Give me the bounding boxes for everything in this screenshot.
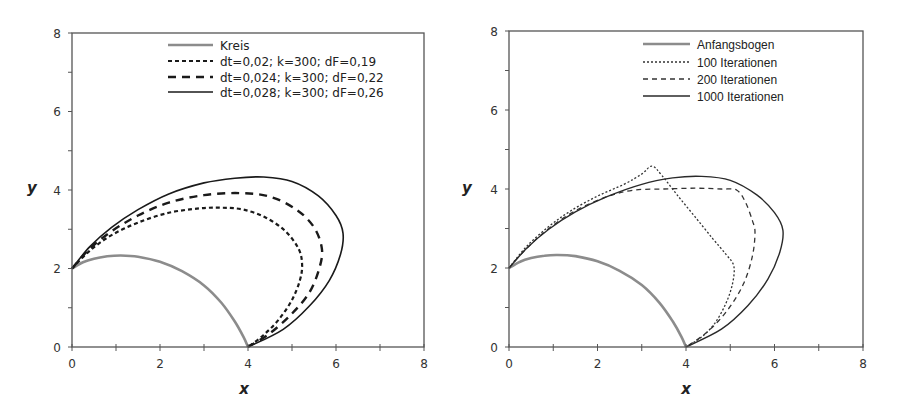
y-tick-label: 6: [53, 105, 61, 119]
right-plot-area: [509, 31, 863, 347]
plot-background: [509, 31, 863, 347]
y-tick-label: 0: [53, 341, 61, 355]
y-tick-label: 2: [53, 262, 61, 276]
x-tick-label: 0: [505, 357, 513, 371]
x-tick-label: 8: [859, 357, 867, 371]
x-tick-label: 0: [68, 357, 76, 371]
x-tick-label: 6: [771, 357, 779, 371]
y-tick-label: 4: [53, 184, 61, 198]
x-tick-label: 4: [244, 357, 252, 371]
right-x-axis-title: x: [680, 380, 692, 398]
y-tick-label: 4: [490, 183, 498, 197]
legend-label: dt=0,02; k=300; dF=0,19: [220, 55, 376, 69]
y-tick-label: 2: [490, 262, 498, 276]
legend-label: 100 Iterationen: [697, 56, 777, 70]
left-y-axis-title: y: [27, 179, 38, 197]
left-chart-circle-variants: 0246802468 Kreisdt=0,02; k=300; dF=0,19d…: [27, 27, 428, 399]
legend-label: Anfangsbogen: [697, 38, 774, 52]
x-tick-label: 2: [156, 357, 164, 371]
y-tick-label: 0: [490, 341, 498, 355]
right-y-axis-title: y: [462, 179, 473, 197]
legend-label: dt=0,024; k=300; dF=0,22: [220, 71, 384, 85]
x-tick-label: 8: [420, 357, 428, 371]
x-tick-label: 4: [682, 357, 690, 371]
left-x-axis-title: x: [238, 380, 250, 398]
x-tick-label: 2: [594, 357, 602, 371]
x-tick-label: 6: [332, 357, 340, 371]
y-tick-label: 8: [53, 27, 61, 41]
y-tick-label: 6: [490, 104, 498, 118]
right-chart-iterations: 0246802468 Anfangsbogen100 Iterationen20…: [462, 25, 867, 399]
legend-label: Kreis: [220, 39, 250, 53]
legend-label: 200 Iterationen: [697, 73, 777, 87]
figure-canvas: 0246802468 Kreisdt=0,02; k=300; dF=0,19d…: [0, 0, 903, 411]
y-tick-label: 8: [490, 25, 498, 39]
legend-label: 1000 Iterationen: [697, 90, 784, 104]
legend-label: dt=0,028; k=300; dF=0,26: [220, 86, 384, 100]
